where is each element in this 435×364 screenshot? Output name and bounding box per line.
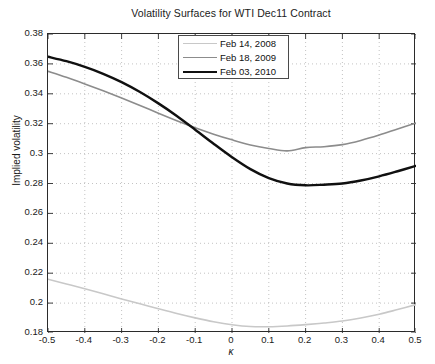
x-axis-label: κ [47, 346, 415, 357]
page-title: Volatility Surfaces for WTI Dec11 Contra… [47, 7, 415, 19]
legend[interactable]: Feb 14, 2008Feb 18, 2009Feb 03, 2010 [178, 35, 289, 79]
y-tick-label: 0.34 [3, 88, 43, 98]
x-tick-label: 0.2 [285, 335, 325, 345]
y-tick-label: 0.32 [3, 118, 43, 128]
y-tick-label: 0.22 [3, 267, 43, 277]
y-tick-label: 0.36 [3, 58, 43, 68]
y-tick-label: 0.38 [3, 28, 43, 38]
x-tick-label: 0.3 [321, 335, 361, 345]
x-tick-label: 0.4 [358, 335, 398, 345]
figure-canvas: Volatility Surfaces for WTI Dec11 Contra… [0, 0, 435, 364]
legend-item-label: Feb 14, 2008 [220, 38, 276, 49]
x-tick-label: -0.4 [64, 335, 104, 345]
x-tick-label: 0 [211, 335, 251, 345]
legend-item[interactable]: Feb 18, 2009 [179, 50, 288, 64]
x-tick-label: -0.3 [101, 335, 141, 345]
legend-item-label: Feb 18, 2009 [220, 52, 276, 63]
legend-line-swatch [183, 64, 217, 78]
x-tick-label: 0.5 [395, 335, 435, 345]
y-axis-tick-labels: 0.180.20.220.240.260.280.30.320.340.360.… [0, 33, 43, 332]
y-tick-label: 0.24 [3, 237, 43, 247]
y-tick-label: 0.2 [3, 297, 43, 307]
x-tick-label: -0.5 [27, 335, 67, 345]
legend-line-swatch [183, 36, 217, 50]
legend-item-label: Feb 03, 2010 [220, 66, 276, 77]
x-tick-label: -0.2 [137, 335, 177, 345]
legend-line-swatch [183, 50, 217, 64]
legend-item[interactable]: Feb 03, 2010 [179, 64, 288, 78]
x-tick-label: 0.1 [248, 335, 288, 345]
y-tick-label: 0.28 [3, 178, 43, 188]
x-tick-label: -0.1 [174, 335, 214, 345]
legend-item[interactable]: Feb 14, 2008 [179, 36, 288, 50]
y-tick-label: 0.26 [3, 207, 43, 217]
y-tick-label: 0.3 [3, 148, 43, 158]
